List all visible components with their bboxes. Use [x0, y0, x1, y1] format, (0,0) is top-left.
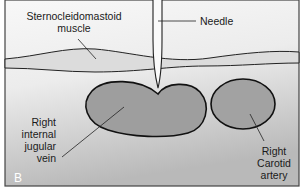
- vein-label-line3: jugular: [23, 140, 56, 152]
- vein-label-line1: Right: [31, 116, 56, 128]
- anatomy-diagram: Sternocleidomastoid muscle Needle Right …: [0, 0, 304, 194]
- vein-label-line2: internal: [22, 128, 56, 140]
- diagram-canvas: Sternocleidomastoid muscle Needle Right …: [0, 0, 304, 194]
- artery-label-line3: artery: [261, 169, 289, 181]
- artery-label-line1: Right: [262, 145, 287, 157]
- artery-label-line2: Carotid: [257, 157, 291, 169]
- panel-letter: B: [14, 171, 22, 185]
- needle-label: Needle: [200, 15, 233, 27]
- muscle-label-line2: muscle: [57, 22, 90, 34]
- internal-jugular-vein: [86, 82, 206, 137]
- vein-label-line4: vein: [37, 152, 56, 164]
- muscle-label-line1: Sternocleidomastoid: [26, 10, 121, 22]
- carotid-artery: [211, 79, 275, 129]
